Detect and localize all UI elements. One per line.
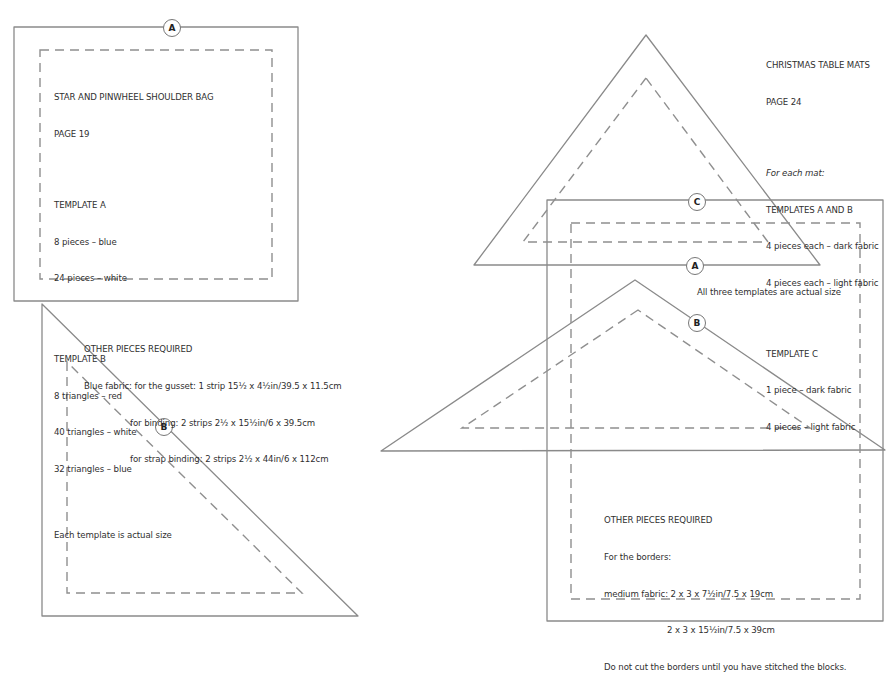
template-a-label-left: A bbox=[163, 19, 181, 37]
template-c-heading: TEMPLATE C bbox=[766, 348, 879, 360]
project-title: CHRISTMAS TABLE MATS bbox=[766, 59, 879, 71]
templates-ab-item: 4 pieces each – dark fabric bbox=[766, 240, 879, 252]
left-cutting-instructions: STAR AND PINWHEEL SHOULDER BAG PAGE 19 T… bbox=[54, 67, 214, 554]
other-pieces-heading: OTHER PIECES REQUIRED bbox=[604, 514, 847, 526]
other-pieces-heading: OTHER PIECES REQUIRED bbox=[84, 343, 342, 355]
page-reference: PAGE 19 bbox=[54, 128, 214, 140]
left-other-pieces: OTHER PIECES REQUIRED Blue fabric: for t… bbox=[84, 319, 342, 478]
project-title: STAR AND PINWHEEL SHOULDER BAG bbox=[54, 91, 214, 103]
template-c-item: 1 piece – dark fabric bbox=[766, 384, 879, 396]
template-b-triangle-seam-line-right bbox=[462, 310, 810, 428]
other-pieces-line: Blue fabric: for the gusset: 1 strip 15½… bbox=[84, 380, 342, 392]
other-pieces-line: 2 x 3 x 15½in/7.5 x 39cm bbox=[604, 624, 847, 636]
right-other-pieces: OTHER PIECES REQUIRED For the borders: m… bbox=[604, 490, 847, 676]
template-a-label-right: A bbox=[686, 257, 704, 275]
template-a-item: 8 pieces – blue bbox=[54, 236, 214, 248]
template-a-triangle-seam-line bbox=[523, 78, 768, 242]
templates-ab-heading: TEMPLATES A AND B bbox=[766, 204, 879, 216]
template-b-label-right: B bbox=[688, 314, 706, 332]
actual-size-note-right: All three templates are actual size bbox=[697, 286, 841, 298]
template-a-item: 24 pieces – white bbox=[54, 272, 214, 284]
other-pieces-line: medium fabric: 2 x 3 x 7½in/7.5 x 19cm bbox=[604, 588, 847, 600]
other-pieces-line: for binding: 2 strips 2½ x 15½in/6 x 39.… bbox=[84, 417, 342, 429]
template-c-item: 4 pieces – light fabric bbox=[766, 421, 879, 433]
template-c-label: C bbox=[688, 193, 706, 211]
other-pieces-line: for strap binding: 2 strips 2½ x 44in/6 … bbox=[84, 453, 342, 465]
other-pieces-line: Do not cut the borders until you have st… bbox=[604, 661, 847, 673]
page-reference: PAGE 24 bbox=[766, 96, 879, 108]
actual-size-note: Each template is actual size bbox=[54, 529, 214, 541]
other-pieces-line: For the borders: bbox=[604, 551, 847, 563]
right-cutting-instructions: CHRISTMAS TABLE MATS PAGE 24 For each ma… bbox=[766, 35, 879, 446]
for-each-mat-label: For each mat: bbox=[766, 167, 879, 179]
template-a-heading: TEMPLATE A bbox=[54, 199, 214, 211]
